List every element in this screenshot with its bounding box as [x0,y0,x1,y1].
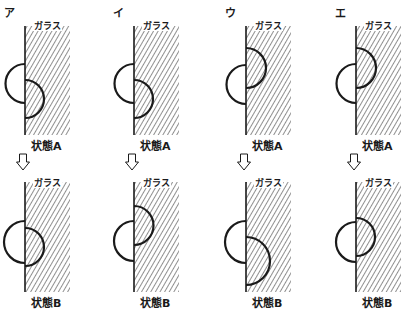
option-label-e: エ [335,4,346,20]
down-arrow-icon [348,154,361,170]
state-b-label: 状態B [362,294,392,310]
state-b-label: 状態B [31,294,61,310]
glass-label: ガラス [33,178,62,188]
down-arrow-icon [238,154,251,170]
outside-semicircle-a [227,65,246,104]
outside-semicircle-a [6,64,26,103]
glass-block-state-a [246,26,291,135]
outside-semicircle-b [114,221,134,261]
state-a-label: 状態A [140,137,171,153]
glass-label: ガラス [142,21,171,31]
glass-label: ガラス [254,21,283,31]
option-label-u: ウ [225,4,236,20]
state-b-label: 状態B [252,294,282,310]
down-arrow-icon [17,154,30,170]
glass-label: ガラス [33,21,62,31]
glass-label: ガラス [254,178,283,188]
glass-block-state-b [25,182,70,292]
state-a-label: 状態A [31,137,62,153]
state-a-label: 状態A [362,137,393,153]
down-arrow-icon [126,154,139,170]
state-b-label: 状態B [140,294,170,310]
glass-block-state-a [356,26,401,135]
outside-semicircle-a [115,64,134,103]
glass-block-state-b [134,182,179,292]
option-label-i: イ [113,4,124,20]
outside-semicircle-b [336,222,356,262]
outside-semicircle-b [4,221,25,263]
outside-semicircle-b [225,221,246,263]
glass-label: ガラス [142,178,171,188]
outside-semicircle-a [337,64,357,103]
glass-label: ガラス [364,178,393,188]
glass-label: ガラス [364,21,393,31]
state-a-label: 状態A [252,137,283,153]
glass-block-state-b [356,182,401,292]
option-label-a: ア [4,4,15,20]
